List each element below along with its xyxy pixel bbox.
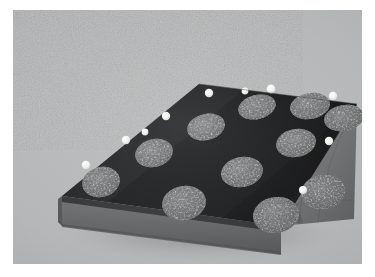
reference-marker: [267, 85, 276, 94]
reference-marker: [205, 89, 213, 97]
reference-marker: [122, 136, 130, 144]
wedge-ramp-drawing: [13, 10, 362, 264]
slab-left-end: [58, 196, 62, 226]
reference-marker: [242, 88, 249, 95]
reference-marker: [325, 137, 333, 145]
reference-marker: [299, 186, 307, 194]
wedge-ramp-object: [13, 10, 362, 264]
reference-marker: [329, 92, 337, 100]
photograph-plate: [13, 10, 362, 264]
image-canvas: [0, 0, 375, 277]
reference-marker: [82, 161, 90, 169]
reference-marker: [162, 112, 170, 120]
reference-marker: [142, 129, 149, 136]
